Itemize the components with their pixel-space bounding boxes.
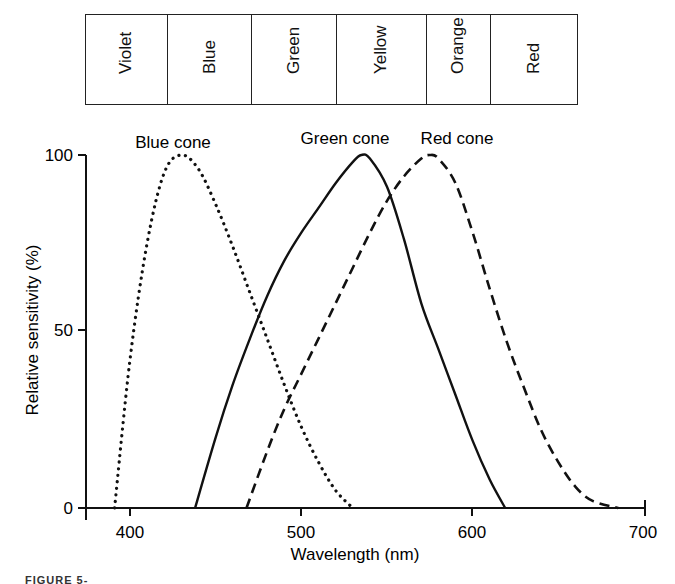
y-tick-100: 100 [45, 146, 73, 165]
axes: 100 50 0 400 500 600 700 Wavelength (nm)… [23, 146, 657, 564]
y-tick-0: 0 [64, 499, 73, 518]
x-tick-400: 400 [116, 523, 144, 542]
x-tick-600: 600 [458, 523, 486, 542]
x-axis-title: Wavelength (nm) [291, 545, 420, 564]
blue-cone-label: Blue cone [135, 133, 211, 152]
blue-cone-curve [115, 155, 353, 508]
cone-sensitivity-chart: 100 50 0 400 500 600 700 Wavelength (nm)… [0, 0, 675, 584]
y-axis-title: Relative sensitivity (%) [23, 245, 42, 416]
x-tick-700: 700 [629, 523, 657, 542]
y-tick-50: 50 [54, 321, 73, 340]
green-cone-label: Green cone [301, 129, 390, 148]
red-cone-label: Red cone [421, 129, 494, 148]
curves [115, 154, 619, 508]
green-cone-curve [195, 154, 505, 508]
x-tick-500: 500 [287, 523, 315, 542]
figure-caption: FIGURE 5- [25, 574, 88, 584]
